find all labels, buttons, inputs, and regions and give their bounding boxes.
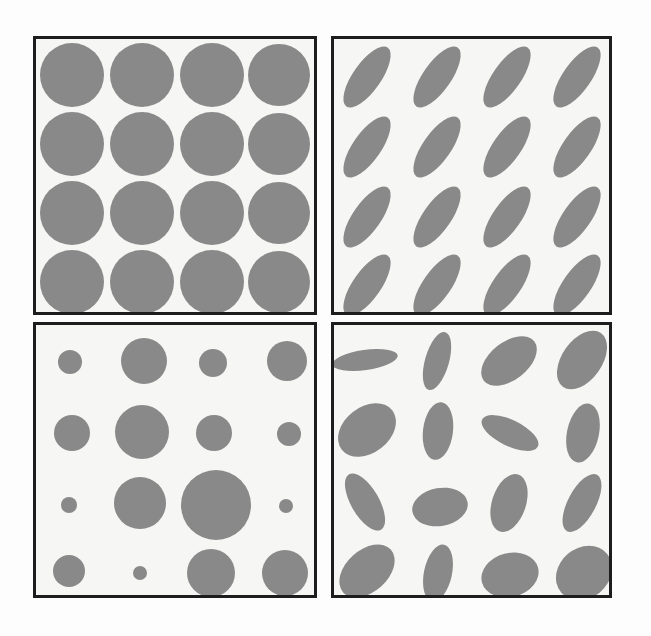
circle-shape [114,477,166,529]
circle-shape [54,415,90,451]
circle-shape [180,43,244,107]
circle-shape [110,250,174,312]
ellipse-shape [561,400,605,465]
ellipse-shape [475,179,539,254]
circle-shape [110,112,174,176]
ellipse-shape [472,326,546,395]
circle-shape [180,181,244,245]
circle-shape [279,499,293,513]
circle-shape [40,181,104,245]
ellipse-shape [555,468,609,538]
ellipse-shape [475,109,539,184]
circle-shape [277,422,301,446]
panel-varied-ellipses [331,322,612,598]
circle-shape [262,550,308,595]
ellipse-shape [545,109,609,184]
ellipse-shape [409,483,471,530]
ellipse-shape [545,247,609,312]
ellipse-shape [475,39,539,114]
ellipse-shape [545,535,609,595]
ellipse-shape [335,179,399,254]
ellipse-shape [484,469,535,537]
ellipse-shape [476,408,543,459]
circle-shape [248,182,310,244]
circle-shape [61,497,77,513]
panel-uniform-ellipses [331,36,612,315]
panel-varied-circles [33,322,317,598]
circle-shape [196,415,232,451]
circle-shape [40,250,104,312]
ellipse-shape [545,179,609,254]
circle-shape [40,43,104,107]
ellipse-shape [476,546,543,595]
panel-varied-ellipses-canvas [334,325,609,595]
ellipse-shape [417,329,457,393]
ellipse-shape [334,392,406,468]
circle-shape [115,405,169,459]
circle-shape [181,470,251,540]
ellipse-shape [335,247,399,312]
ellipse-shape [405,179,469,254]
panel-varied-circles-canvas [36,325,314,595]
ellipse-shape [418,542,457,595]
circle-shape [180,112,244,176]
circle-shape [248,44,310,106]
circle-shape [180,250,244,312]
figure-root [0,0,651,636]
ellipse-shape [334,346,399,375]
circle-shape [110,43,174,107]
circle-shape [187,549,235,595]
circle-shape [133,566,147,580]
ellipse-shape [405,109,469,184]
ellipse-shape [475,247,539,312]
circle-shape [110,181,174,245]
circle-shape [40,112,104,176]
ellipse-shape [420,400,457,461]
ellipse-shape [405,39,469,114]
circle-shape [121,338,167,384]
ellipse-shape [334,534,405,595]
circle-shape [199,349,227,377]
circle-shape [53,555,85,587]
panel-uniform-ellipses-canvas [334,39,609,312]
circle-shape [58,350,82,374]
ellipse-shape [547,325,609,399]
circle-shape [248,113,310,175]
ellipse-shape [335,39,399,114]
panel-uniform-circles-canvas [36,39,314,312]
panel-uniform-circles [33,36,317,315]
circle-shape [248,251,310,312]
ellipse-shape [337,467,393,536]
ellipse-shape [335,109,399,184]
circle-shape [267,341,307,381]
ellipse-shape [545,39,609,114]
ellipse-shape [405,247,469,312]
